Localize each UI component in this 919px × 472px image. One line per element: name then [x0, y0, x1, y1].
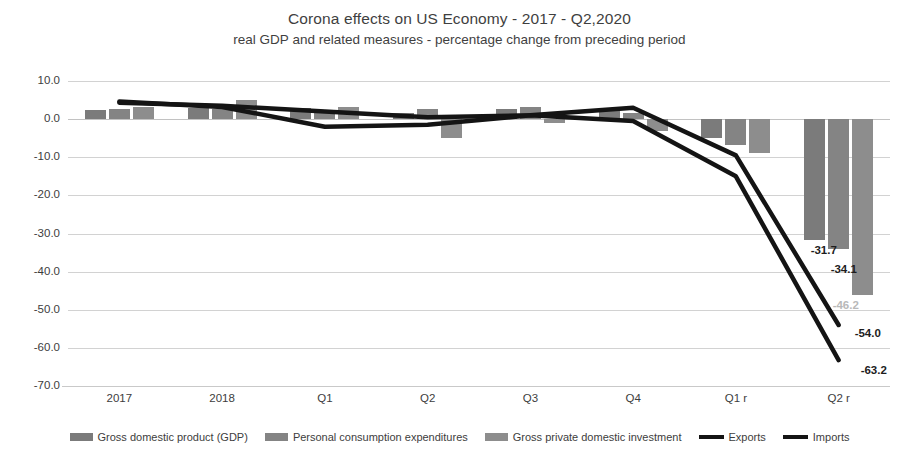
legend-label: Gross domestic product (GDP) — [98, 431, 248, 443]
y-axis-tick-label: -10.0 — [4, 150, 60, 162]
y-axis-tick-label: -20.0 — [4, 188, 60, 200]
y-axis-tick-label: -50.0 — [4, 303, 60, 315]
y-axis-tick-label: -40.0 — [4, 265, 60, 277]
x-axis-baseline — [62, 386, 890, 387]
legend-bar-swatch-icon — [485, 433, 508, 441]
chart-title-block: Corona effects on US Economy - 2017 - Q2… — [0, 8, 919, 50]
line-series-layer — [68, 81, 890, 386]
y-axis-tick-label: -30.0 — [4, 227, 60, 239]
data-label: -63.2 — [861, 364, 887, 376]
x-axis-tick-label: Q1 — [317, 392, 332, 404]
x-axis-labels: 20172018Q1Q2Q3Q4Q1 rQ2 r — [68, 392, 890, 414]
legend-label: Personal consumption expenditures — [293, 431, 468, 443]
legend-item[interactable]: Personal consumption expenditures — [265, 431, 468, 443]
data-label: -31.7 — [811, 244, 837, 256]
chart-subtitle: real GDP and related measures - percenta… — [0, 30, 919, 50]
legend-label: Imports — [813, 431, 850, 443]
legend-line-swatch-icon — [699, 435, 724, 439]
x-axis-tick-label: 2018 — [209, 392, 235, 404]
line-series — [119, 102, 838, 360]
legend-item[interactable]: Gross private domestic investment — [485, 431, 682, 443]
x-axis-tick-label: 2017 — [107, 392, 133, 404]
line-series — [119, 103, 838, 325]
chart-legend: Gross domestic product (GDP)Personal con… — [0, 431, 919, 443]
data-label: -34.1 — [831, 263, 857, 275]
chart-title: Corona effects on US Economy - 2017 - Q2… — [0, 8, 919, 30]
y-axis-tick-label: -60.0 — [4, 341, 60, 353]
x-axis-tick-label: Q3 — [523, 392, 538, 404]
legend-label: Gross private domestic investment — [513, 431, 682, 443]
legend-item[interactable]: Imports — [783, 431, 850, 443]
legend-line-swatch-icon — [783, 435, 808, 439]
y-axis-tick-label: 0.0 — [4, 112, 60, 124]
y-axis-tick-label: 10.0 — [4, 74, 60, 86]
legend-item[interactable]: Exports — [699, 431, 766, 443]
data-label: -54.0 — [855, 327, 881, 339]
y-axis-tick-label: -70.0 — [4, 379, 60, 391]
x-axis-tick-label: Q2 — [420, 392, 435, 404]
legend-label: Exports — [729, 431, 766, 443]
legend-item[interactable]: Gross domestic product (GDP) — [70, 431, 248, 443]
legend-bar-swatch-icon — [70, 433, 93, 441]
x-axis-tick-label: Q1 r — [725, 392, 747, 404]
chart-container: Corona effects on US Economy - 2017 - Q2… — [0, 0, 919, 472]
x-axis-tick-label: Q2 r — [827, 392, 849, 404]
x-axis-tick-label: Q4 — [625, 392, 640, 404]
data-label: -46.2 — [833, 299, 859, 311]
legend-bar-swatch-icon — [265, 433, 288, 441]
